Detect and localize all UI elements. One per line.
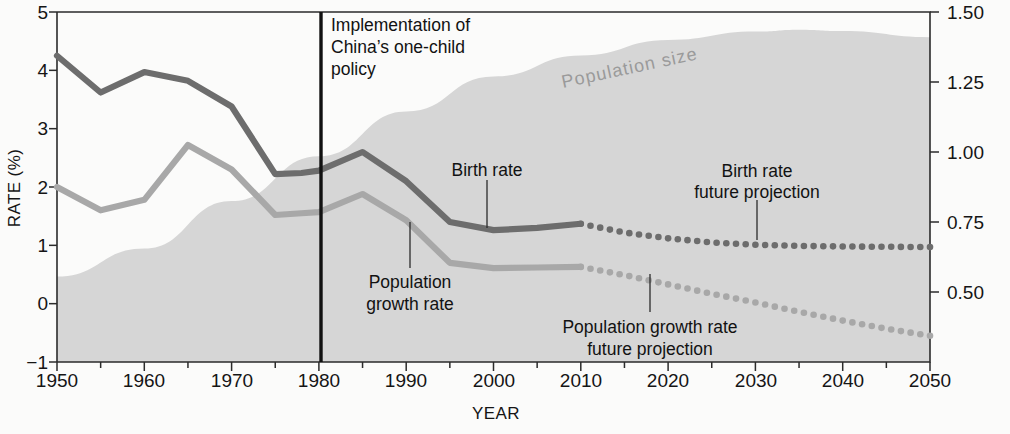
y-tick-2: 2: [37, 177, 48, 198]
population-growth-projection-label-line-2: future projection: [587, 339, 713, 359]
population-growth-projection-label-line-1: Population growth rate: [562, 317, 737, 337]
policy-annotation-line-1: Implementation of: [331, 15, 470, 35]
policy-annotation-line-3: policy: [331, 59, 376, 79]
x-tick-1950: 1950: [36, 370, 78, 391]
x-tick-2020: 2020: [647, 370, 689, 391]
y-tick-4: 4: [37, 60, 48, 81]
y-right-tick-0-75: 0.75: [947, 212, 984, 233]
y-tick-5: 5: [37, 2, 48, 23]
x-tick-2040: 2040: [822, 370, 864, 391]
x-tick-2050: 2050: [909, 370, 951, 391]
y-tick-3: 3: [37, 118, 48, 139]
birth-rate-label: Birth rate: [452, 160, 523, 180]
y-axis-title: RATE (%): [5, 149, 24, 227]
y-tick-1: 1: [37, 235, 48, 256]
population-rate-chart: 5 4 3 2 1 0 −1 1.50 1.25 1.00 0.75 0.50 …: [0, 0, 1010, 434]
y-right-tick-0-50: 0.50: [947, 282, 984, 303]
birth-rate-projection-label-line-2: future projection: [694, 182, 820, 202]
population-growth-rate-label-line-2: growth rate: [366, 294, 454, 314]
x-tick-2030: 2030: [735, 370, 777, 391]
x-tick-1960: 1960: [123, 370, 165, 391]
population-growth-rate-label-line-1: Population: [369, 272, 452, 292]
x-tick-2010: 2010: [560, 370, 602, 391]
y-right-tick-1-00: 1.00: [947, 142, 984, 163]
y-right-tick-1-25: 1.25: [947, 72, 984, 93]
y-right-tick-1-50: 1.50: [947, 2, 984, 23]
x-tick-1970: 1970: [211, 370, 253, 391]
birth-rate-projection-label-line-1: Birth rate: [722, 161, 793, 181]
x-tick-1980: 1980: [298, 370, 340, 391]
y-tick-0: 0: [37, 293, 48, 314]
x-axis-title: YEAR: [472, 404, 520, 423]
chart-svg: 5 4 3 2 1 0 −1 1.50 1.25 1.00 0.75 0.50 …: [0, 0, 1010, 434]
x-tick-1990: 1990: [385, 370, 427, 391]
policy-annotation-line-2: China’s one-child: [331, 37, 465, 57]
x-tick-2000: 2000: [473, 370, 515, 391]
